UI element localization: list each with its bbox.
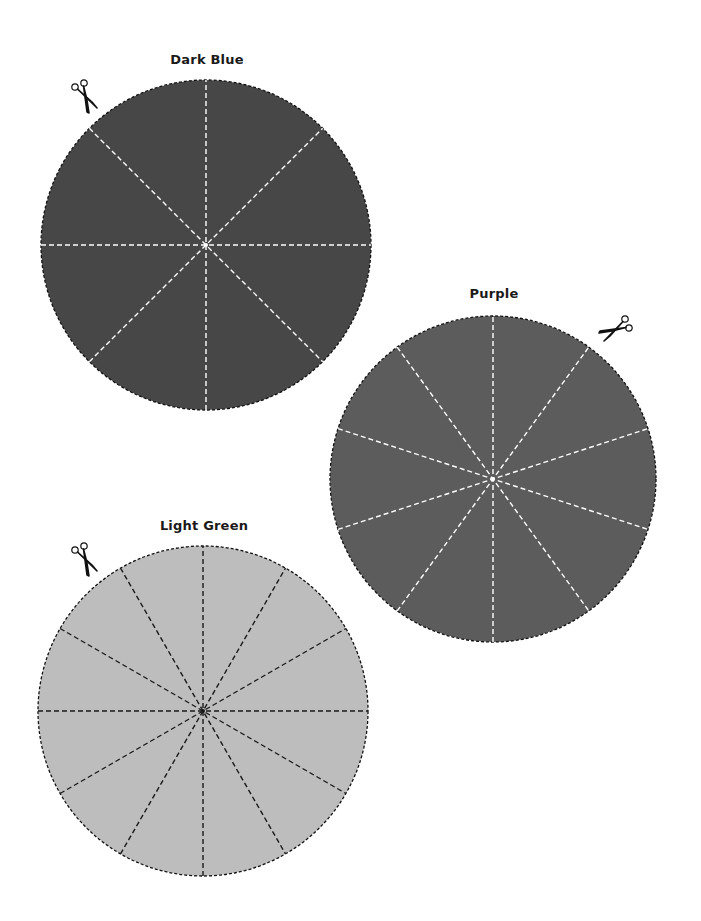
light-green-center-dot xyxy=(201,709,205,713)
scissors-icon xyxy=(72,80,97,113)
dark-blue-center-dot xyxy=(204,243,208,247)
purple-title: Purple xyxy=(470,286,519,301)
purple-circle xyxy=(330,316,656,642)
light-green-circle xyxy=(38,546,368,876)
dark-blue-circle xyxy=(41,80,371,410)
dark-blue-title: Dark Blue xyxy=(170,52,243,67)
light-green-title: Light Green xyxy=(160,518,248,533)
scissors-icon xyxy=(599,316,632,341)
purple-center-dot xyxy=(491,477,495,481)
scissors-icon xyxy=(72,543,97,576)
fraction-circles-sheet xyxy=(0,0,701,921)
